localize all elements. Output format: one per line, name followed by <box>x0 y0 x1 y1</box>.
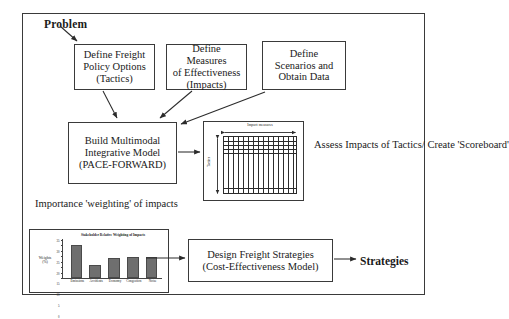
chart-y-tick-label: 0 <box>58 315 60 319</box>
